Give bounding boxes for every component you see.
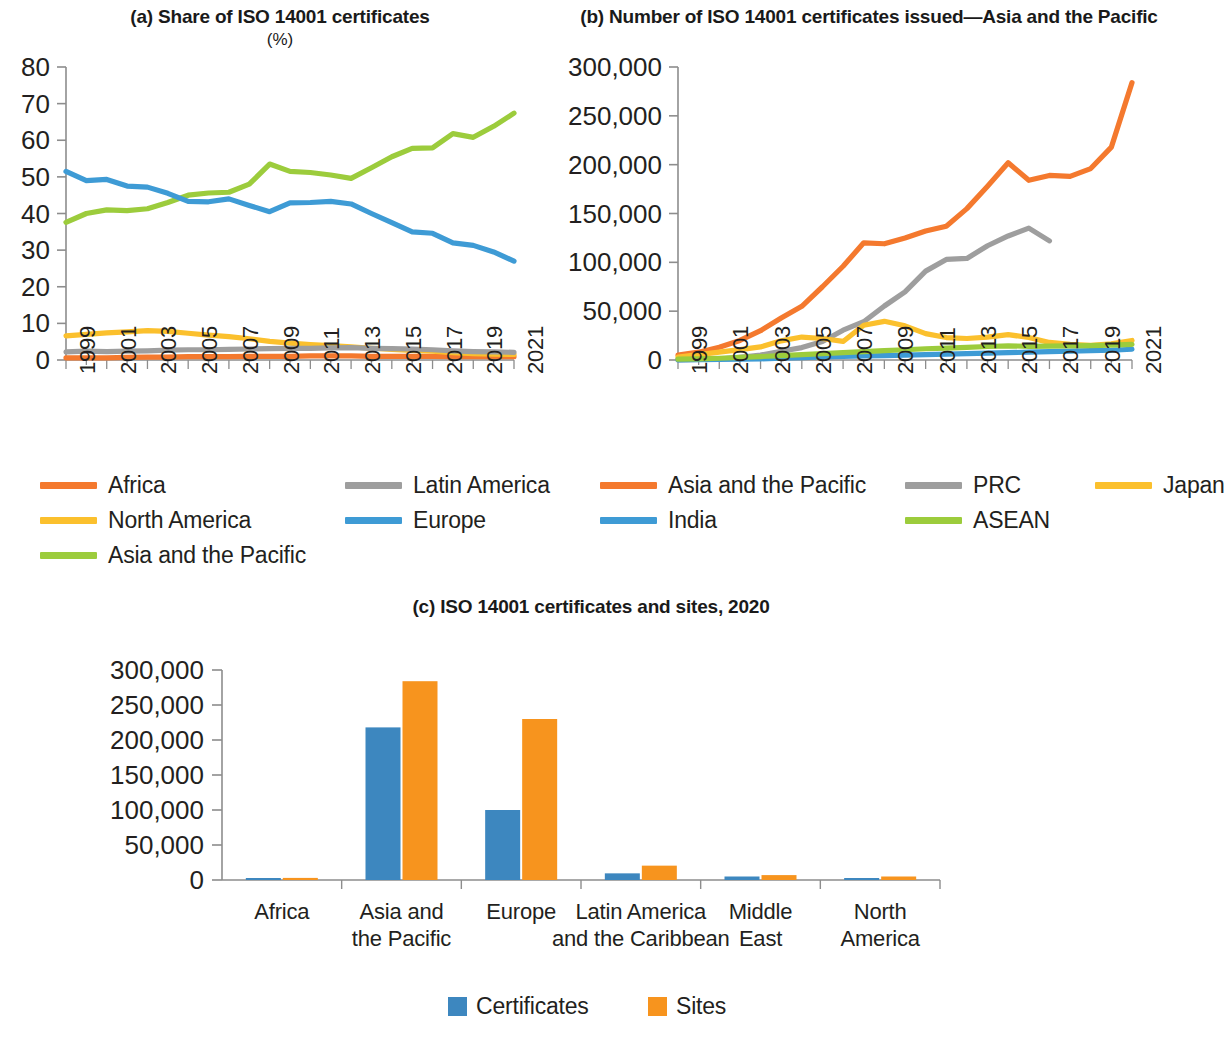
xtick-label: 1999	[687, 326, 713, 374]
ytick-label: 200,000	[568, 150, 662, 180]
ytick-label: 100,000	[110, 795, 204, 825]
bar-certificates	[485, 810, 520, 880]
bar-certificates	[844, 878, 879, 880]
ytick-label: 150,000	[568, 199, 662, 229]
ytick-label: 30	[21, 235, 50, 265]
legend-item-europe[interactable]: Europe	[345, 507, 486, 534]
ytick-label: 250,000	[110, 690, 204, 720]
panel-c-title: (c) ISO 14001 certificates and sites, 20…	[0, 594, 1182, 619]
legend-label: Sites	[676, 993, 726, 1020]
legend-label: India	[668, 507, 717, 534]
bar-sites	[762, 875, 797, 880]
panel-a-title: (a) Share of ISO 14001 certificates	[40, 4, 520, 29]
panel-c: (c) ISO 14001 certificates and sites, 20…	[0, 588, 1182, 1048]
legend-label: Europe	[413, 507, 486, 534]
xtick-label: 2015	[401, 326, 427, 374]
legend-item-asia-and-the-pacific[interactable]: Asia and the Pacific	[600, 472, 866, 499]
legend-item-north-america[interactable]: North America	[40, 507, 251, 534]
ytick-label: 10	[21, 308, 50, 338]
bar-certificates	[725, 877, 760, 881]
ytick-label: 300,000	[568, 55, 662, 82]
xtick-label: 1999	[75, 326, 101, 374]
ytick-label: 300,000	[110, 656, 204, 685]
ytick-label: 0	[36, 345, 50, 375]
legend-color-swatch	[600, 482, 657, 489]
series-line-europe	[66, 171, 514, 261]
xtick-label: 2021	[1141, 326, 1167, 374]
xtick-label: 2019	[1100, 326, 1126, 374]
legend-label: Certificates	[476, 993, 589, 1020]
xtick-label: 2001	[116, 326, 142, 374]
ytick-label: 80	[21, 55, 50, 82]
panel-c-svg: 050,000100,000150,000200,000250,000300,0…	[0, 656, 1182, 916]
legend-item-prc[interactable]: PRC	[905, 472, 1021, 499]
xtick-label: 2011	[935, 327, 961, 374]
xtick-label: 2011	[319, 327, 345, 374]
ytick-label: 200,000	[110, 725, 204, 755]
xtick-label: 2001	[728, 326, 754, 374]
legend-color-swatch	[345, 517, 402, 524]
series-line-asia-and-the-pacific	[66, 113, 514, 222]
legend-label: Asia and the Pacific	[668, 472, 866, 499]
xtick-label: 2003	[770, 326, 796, 374]
legend-item-japan[interactable]: Japan	[1095, 472, 1225, 499]
ytick-label: 50	[21, 162, 50, 192]
category-label-line: the Pacific	[287, 925, 517, 952]
xtick-label: 2003	[156, 326, 182, 374]
xtick-label: 2013	[360, 326, 386, 374]
panel-a-subtitle: (%)	[40, 28, 520, 52]
category-label: NorthAmerica	[765, 898, 995, 952]
legend-label: Africa	[108, 472, 166, 499]
legend-item-sites[interactable]: Sites	[648, 993, 726, 1020]
ytick-label: 0	[190, 865, 204, 895]
xtick-label: 2021	[523, 326, 549, 374]
ytick-label: 150,000	[110, 760, 204, 790]
legend-item-asean[interactable]: ASEAN	[905, 507, 1050, 534]
ytick-label: 70	[21, 89, 50, 119]
legend-label: PRC	[973, 472, 1021, 499]
ytick-label: 40	[21, 199, 50, 229]
legend-color-swatch	[905, 517, 962, 524]
category-label-line: North	[765, 898, 995, 925]
bar-certificates	[605, 873, 640, 880]
ytick-label: 100,000	[568, 247, 662, 277]
panel-a: (a) Share of ISO 14001 certificates (%) …	[0, 0, 556, 560]
legend-color-swatch	[40, 517, 97, 524]
category-label-line: America	[765, 925, 995, 952]
bar-sites	[403, 681, 438, 880]
bar-sites	[283, 878, 318, 880]
legend-item-africa[interactable]: Africa	[40, 472, 166, 499]
ytick-label: 50,000	[124, 830, 204, 860]
ytick-label: 20	[21, 272, 50, 302]
legend-label: Japan	[1163, 472, 1225, 499]
legend-item-latin-america[interactable]: Latin America	[345, 472, 550, 499]
legend-color-swatch	[1095, 482, 1152, 489]
legend-color-swatch	[345, 482, 402, 489]
bar-sites	[642, 866, 677, 880]
legend-item-asia-and-the-pacific[interactable]: Asia and the Pacific	[40, 542, 306, 569]
ytick-label: 250,000	[568, 101, 662, 131]
bar-certificates	[246, 878, 281, 880]
ytick-label: 60	[21, 125, 50, 155]
legend-item-certificates[interactable]: Certificates	[448, 993, 589, 1020]
panel-b-title: (b) Number of ISO 14001 certificates iss…	[556, 4, 1182, 29]
ytick-label: 0	[648, 345, 662, 375]
xtick-label: 2013	[976, 326, 1002, 374]
legend-color-swatch	[600, 517, 657, 524]
legend-color-swatch	[448, 997, 467, 1016]
legend-label: ASEAN	[973, 507, 1050, 534]
legend-label: North America	[108, 507, 251, 534]
bar-certificates	[366, 727, 401, 880]
xtick-label: 2007	[852, 326, 878, 374]
xtick-label: 2005	[197, 326, 223, 374]
legend-color-swatch	[648, 997, 667, 1016]
legend-color-swatch	[40, 552, 97, 559]
legend-color-swatch	[40, 482, 97, 489]
xtick-label: 2019	[482, 326, 508, 374]
bar-sites	[522, 719, 557, 880]
legend-label: Asia and the Pacific	[108, 542, 306, 569]
legend-item-india[interactable]: India	[600, 507, 717, 534]
legend-color-swatch	[905, 482, 962, 489]
series-line-asia-and-the-pacific	[678, 83, 1132, 355]
panel-c-plot: 050,000100,000150,000200,000250,000300,0…	[0, 656, 1182, 916]
